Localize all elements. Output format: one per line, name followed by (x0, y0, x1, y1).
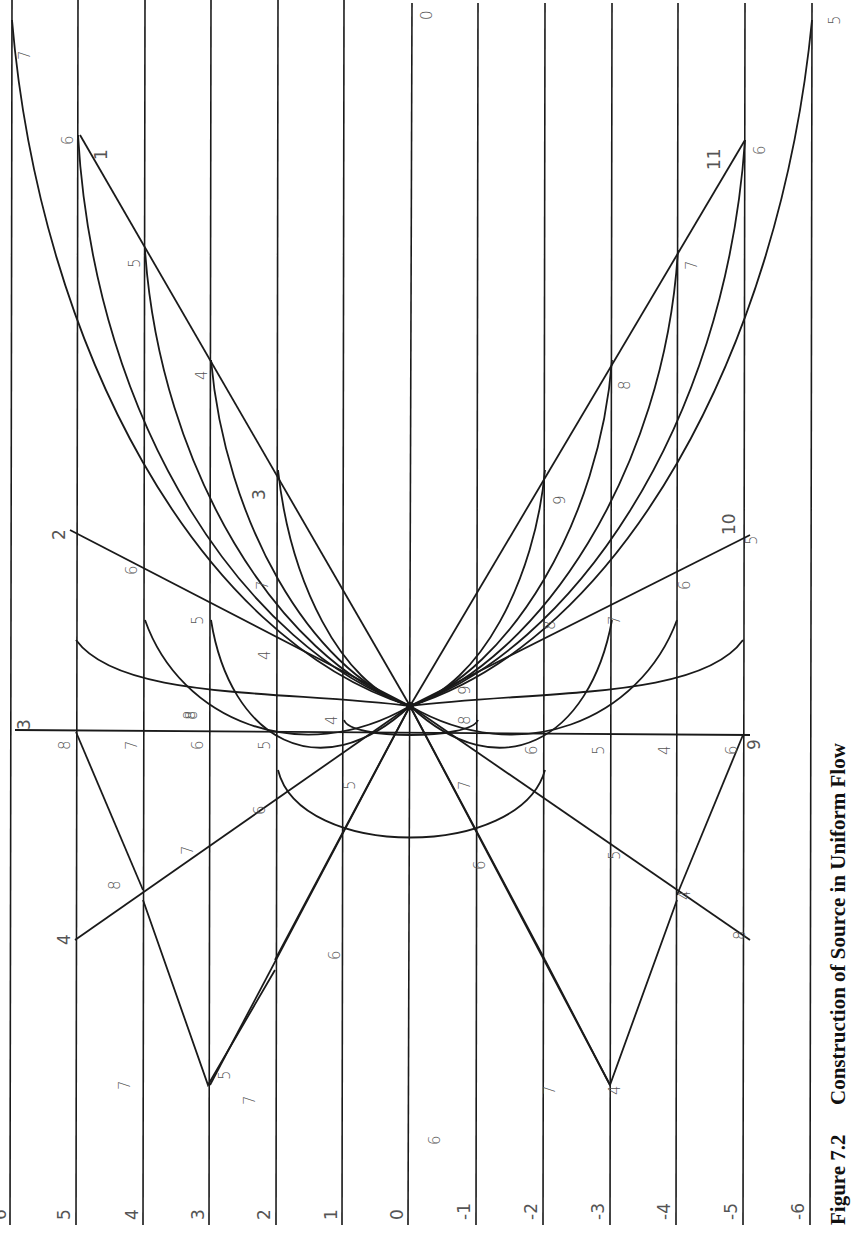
svg-text:8: 8 (56, 740, 74, 750)
svg-text:4: 4 (606, 1085, 624, 1095)
streamline-label: 2 (254, 1209, 274, 1220)
streamline-label: 3 (188, 1209, 208, 1220)
svg-text:7: 7 (456, 780, 474, 790)
svg-text:4: 4 (656, 745, 674, 755)
svg-text:6: 6 (471, 860, 489, 870)
axis-end-label: 3 (14, 719, 34, 730)
svg-text:7: 7 (16, 50, 34, 60)
figure-number: Figure 7.2 (826, 1134, 850, 1225)
figure-title: Construction of Source in Uniform Flow (826, 742, 850, 1105)
svg-text:6: 6 (326, 950, 344, 960)
svg-text:6: 6 (123, 565, 141, 575)
svg-text:7: 7 (241, 1095, 259, 1105)
svg-text:5: 5 (743, 535, 761, 545)
streamline-label: 4 (122, 1209, 142, 1220)
svg-text:6: 6 (59, 135, 77, 145)
streamline-labels: 6 5 4 3 2 1 0 -1 -2 -3 -4 -5 -6 (0, 1203, 808, 1220)
streamline-label: 6 (0, 1209, 10, 1220)
streamline-label: -6 (788, 1203, 808, 1220)
svg-text:7: 7 (254, 580, 272, 590)
svg-text:5: 5 (606, 850, 624, 860)
streamline-label: -1 (454, 1203, 474, 1220)
svg-text:9: 9 (551, 495, 569, 505)
svg-text:5: 5 (826, 15, 844, 25)
svg-text:4: 4 (323, 715, 341, 725)
svg-text:5: 5 (216, 1070, 234, 1080)
svg-text:5: 5 (189, 615, 207, 625)
svg-text:5: 5 (341, 780, 359, 790)
svg-text:6: 6 (426, 1135, 444, 1145)
svg-text:7: 7 (116, 1080, 134, 1090)
svg-text:4: 4 (676, 890, 694, 900)
ray-label: 4 (54, 934, 74, 945)
svg-text:6: 6 (676, 580, 694, 590)
svg-text:5: 5 (590, 745, 608, 755)
svg-text:4: 4 (256, 650, 274, 660)
streamline-label: -5 (721, 1203, 741, 1220)
streamline-label: 0 (387, 1209, 407, 1220)
svg-text:8: 8 (183, 710, 201, 720)
flow-construction-diagram: 6 5 4 3 2 1 0 -1 -2 -3 -4 -5 -6 1 2 3 4 … (0, 0, 854, 1233)
ray-label: 1 (91, 149, 111, 160)
ray-label: 10 (719, 513, 739, 535)
svg-text:6: 6 (751, 145, 769, 155)
streamline-label: -3 (588, 1203, 608, 1220)
svg-text:6: 6 (189, 740, 207, 750)
streamline-label: -2 (521, 1203, 541, 1220)
ray-label: 11 (704, 148, 724, 170)
svg-text:8: 8 (731, 930, 749, 940)
axis-end-label: 9 (744, 739, 764, 750)
svg-text:5: 5 (126, 258, 144, 268)
svg-text:8: 8 (106, 880, 124, 890)
streamline-label: 5 (54, 1209, 74, 1220)
svg-text:6: 6 (723, 745, 741, 755)
svg-text:0: 0 (418, 10, 436, 20)
svg-text:7: 7 (541, 1085, 559, 1095)
intersection-labels: 7 6 5 4 7 6 5 4 8 7 6 5 4 8 7 6 5 7 8 8 … (16, 10, 844, 1145)
svg-text:5: 5 (256, 740, 274, 750)
svg-text:9: 9 (456, 685, 474, 695)
svg-text:7: 7 (606, 615, 624, 625)
uniform-flow-streamlines (10, 0, 812, 1225)
streamline-label: 1 (321, 1209, 341, 1220)
svg-text:8: 8 (616, 380, 634, 390)
svg-text:6: 6 (251, 805, 269, 815)
svg-text:4: 4 (193, 370, 211, 380)
svg-text:8: 8 (541, 620, 559, 630)
ray-label: 3 (249, 489, 269, 500)
streamline-label: -4 (654, 1203, 674, 1220)
svg-text:6: 6 (523, 745, 541, 755)
source-point (406, 702, 414, 710)
svg-text:7: 7 (683, 260, 701, 270)
svg-text:7: 7 (123, 740, 141, 750)
svg-text:7: 7 (179, 845, 197, 855)
figure-caption: Figure 7.2 Construction of Source in Uni… (826, 742, 850, 1225)
ray-label: 2 (49, 529, 69, 540)
svg-text:8: 8 (456, 715, 474, 725)
